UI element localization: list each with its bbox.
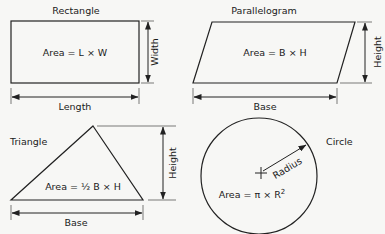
triangle-figure: Triangle Area = ½ B × H Height Base <box>9 126 178 228</box>
circle-formula-base: Area = π × R <box>219 189 282 200</box>
circle-shape <box>201 118 317 234</box>
parallelogram-title: Parallelogram <box>231 5 296 16</box>
rectangle-width-label: Width <box>149 38 160 66</box>
parallelogram-figure: Parallelogram Area = B × H Height Base <box>193 5 383 112</box>
rectangle-length-label: Length <box>59 101 92 112</box>
triangle-base-label: Base <box>64 217 87 228</box>
circle-figure: Circle Radius Area = π × R2 <box>201 118 353 234</box>
circle-formula: Area = π × R2 <box>219 188 286 200</box>
triangle-height-label: Height <box>167 147 178 179</box>
rectangle-formula: Area = L × W <box>43 47 108 58</box>
rectangle-title: Rectangle <box>52 5 99 16</box>
parallelogram-base-label: Base <box>253 101 276 112</box>
parallelogram-formula: Area = B × H <box>243 47 307 58</box>
circle-title: Circle <box>326 136 353 147</box>
parallelogram-height-label: Height <box>372 36 383 68</box>
circle-radius-label: Radius <box>271 155 304 181</box>
triangle-formula: Area = ½ B × H <box>45 181 121 192</box>
rectangle-figure: Rectangle Area = L × W Width Length <box>11 5 160 112</box>
circle-formula-exponent: 2 <box>281 188 285 196</box>
triangle-title: Triangle <box>9 136 47 147</box>
area-formulas-diagram: Rectangle Area = L × W Width Length Para… <box>0 0 385 234</box>
